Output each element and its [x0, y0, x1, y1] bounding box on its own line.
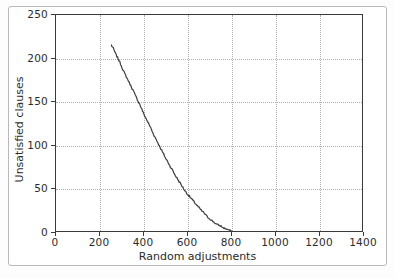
y-tick-label: 150: [27, 95, 48, 107]
plot-area: [55, 14, 363, 232]
y-axis-title: Unsatisfied clauses: [13, 45, 26, 215]
x-tick-label: 600: [177, 236, 198, 248]
y-tick-mark: [51, 58, 55, 59]
x-axis-title: Random adjustments: [0, 250, 395, 263]
y-tick-label: 200: [27, 52, 48, 64]
x-tick-label: 0: [52, 236, 59, 248]
y-tick-mark: [51, 188, 55, 189]
y-tick-mark: [51, 145, 55, 146]
y-tick-mark: [51, 14, 55, 15]
y-tick-label: 0: [41, 226, 48, 238]
y-tick-label: 100: [27, 139, 48, 151]
series-line-unsatisfied-clauses: [111, 29, 363, 232]
x-tick-label: 1000: [261, 236, 289, 248]
x-tick-label: 1200: [305, 236, 333, 248]
x-tick-label: 200: [89, 236, 110, 248]
gridline-vertical: [100, 15, 101, 231]
x-tick-label: 1400: [349, 236, 377, 248]
y-tick-mark: [51, 232, 55, 233]
chart-page: 0200400600800100012001400 05010015020025…: [0, 0, 395, 278]
x-tick-label: 800: [221, 236, 242, 248]
y-tick-label: 250: [27, 8, 48, 20]
figure-canvas: 0200400600800100012001400 05010015020025…: [0, 0, 395, 278]
x-tick-label: 400: [133, 236, 154, 248]
y-tick-label: 50: [34, 182, 48, 194]
y-tick-mark: [51, 101, 55, 102]
